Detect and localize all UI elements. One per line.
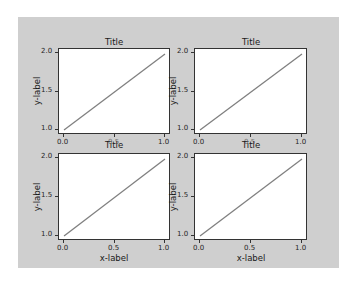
y-tick-mark xyxy=(55,129,58,130)
x-tick-label: 0.5 xyxy=(108,244,119,252)
x-tick-label: 1.0 xyxy=(158,244,169,252)
y-tick-mark xyxy=(55,157,58,158)
x-tick-mark xyxy=(199,134,200,137)
y-axis-label: y-label xyxy=(32,77,42,106)
y-tick-label: 1.5 xyxy=(177,191,188,199)
x-tick-label: 0.0 xyxy=(193,244,204,252)
subplot-title: Title xyxy=(105,37,123,47)
y-tick-label: 2.0 xyxy=(41,47,52,55)
x-tick-mark xyxy=(250,240,251,243)
y-tick-label: 1.0 xyxy=(177,124,188,132)
y-tick-mark xyxy=(55,52,58,53)
x-axis-label: x-label xyxy=(237,253,266,263)
x-tick-mark xyxy=(301,240,302,243)
x-tick-label: 0.0 xyxy=(57,138,68,146)
axes-area xyxy=(58,48,170,134)
x-tick-mark xyxy=(114,134,115,137)
x-tick-mark xyxy=(114,240,115,243)
y-tick-mark xyxy=(55,196,58,197)
y-tick-label: 2.0 xyxy=(177,152,188,160)
x-tick-label: 1.0 xyxy=(158,138,169,146)
y-tick-mark xyxy=(55,235,58,236)
x-tick-mark xyxy=(199,240,200,243)
x-tick-mark xyxy=(63,240,64,243)
y-tick-mark xyxy=(191,91,194,92)
x-tick-label-overlapped: 0.5 xyxy=(108,138,119,146)
line-plot xyxy=(195,154,308,241)
x-tick-mark xyxy=(250,134,251,137)
x-tick-mark xyxy=(164,134,165,137)
x-tick-mark xyxy=(301,134,302,137)
x-axis-label: x-label xyxy=(100,253,129,263)
line-plot xyxy=(59,154,171,241)
y-axis-label: y-label xyxy=(168,183,178,212)
y-tick-mark xyxy=(191,52,194,53)
y-tick-label: 1.0 xyxy=(177,230,188,238)
axes-area xyxy=(58,153,170,240)
y-tick-mark xyxy=(191,129,194,130)
y-tick-label: 1.5 xyxy=(177,86,188,94)
y-tick-label: 1.5 xyxy=(41,86,52,94)
y-tick-label: 1.0 xyxy=(41,230,52,238)
x-tick-label: 0.5 xyxy=(244,244,255,252)
x-tick-label: 1.0 xyxy=(295,138,306,146)
x-tick-label: 0.0 xyxy=(57,244,68,252)
y-tick-mark xyxy=(55,91,58,92)
subplot-title: Title xyxy=(242,37,260,47)
y-tick-label: 2.0 xyxy=(41,152,52,160)
x-tick-label: 1.0 xyxy=(295,244,306,252)
y-tick-label: 2.0 xyxy=(177,47,188,55)
axes-area xyxy=(194,48,307,134)
y-axis-label: y-label xyxy=(32,183,42,212)
x-tick-label-overlapped: 0.5 xyxy=(244,138,255,146)
axes-area xyxy=(194,153,307,240)
y-tick-label: 1.0 xyxy=(41,124,52,132)
x-tick-mark xyxy=(63,134,64,137)
line-plot xyxy=(59,49,171,135)
x-tick-mark xyxy=(164,240,165,243)
y-axis-label: y-label xyxy=(168,77,178,106)
y-tick-label: 1.5 xyxy=(41,191,52,199)
x-tick-label: 0.0 xyxy=(193,138,204,146)
y-tick-mark xyxy=(191,235,194,236)
y-tick-mark xyxy=(191,157,194,158)
y-tick-mark xyxy=(191,196,194,197)
line-plot xyxy=(195,49,308,135)
